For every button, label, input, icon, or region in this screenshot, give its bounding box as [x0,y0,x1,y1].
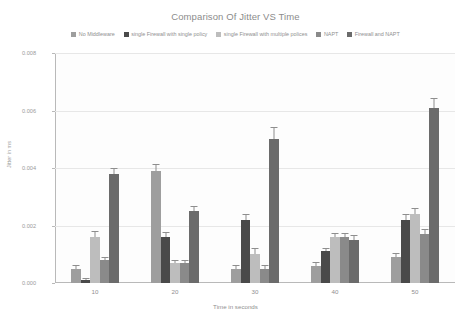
legend-item-0[interactable]: No Middleware [71,32,114,37]
error-bar-cap [332,233,339,234]
bar[interactable] [90,237,100,283]
bar[interactable] [321,251,331,283]
x-tick-label: 10 [92,288,99,295]
bar[interactable] [81,280,91,283]
bar-slot [429,53,439,283]
error-bar-cap [181,260,188,261]
bar[interactable] [241,220,251,283]
error-bar [165,233,166,237]
error-bar [236,266,237,268]
bar-group-10 [71,53,119,283]
bar[interactable] [349,240,359,283]
error-bar [316,263,317,265]
x-tick-label: 20 [172,288,179,295]
legend-item-4[interactable]: Firewall and NAPT [347,32,399,37]
error-bar [424,230,425,234]
bar[interactable] [71,269,81,283]
y-tick-label: 0.002 [0,223,36,229]
bar-slot [170,53,180,283]
bar-slot [260,53,270,283]
error-bar [156,165,157,171]
legend-label: single Firewall with single policy [131,32,207,37]
legend-item-2[interactable]: single Firewall with multiple polices [216,32,307,37]
y-tick-mark [52,283,55,284]
error-bar-cap [421,229,428,230]
error-bar [114,169,115,173]
bar[interactable] [269,139,279,283]
y-tick-label: 0.008 [0,50,36,56]
error-bar-cap [412,208,419,209]
chart-figure: Comparison Of Jitter VS Time No Middlewa… [0,0,471,324]
error-bar [405,215,406,219]
chart-title: Comparison Of Jitter VS Time [0,11,471,22]
bar-slot [401,53,411,283]
bar[interactable] [231,269,241,283]
bar[interactable] [161,237,171,283]
legend-swatch-icon [124,32,129,37]
bar-slot [151,53,161,283]
error-bar [325,249,326,252]
bar-slot [340,53,350,283]
bar-slot [189,53,199,283]
bar[interactable] [109,174,119,283]
bar-slot [330,53,340,283]
bar-slot [81,53,91,283]
bar[interactable] [429,108,439,283]
error-bar-cap [73,265,80,266]
legend-item-3[interactable]: NAPT [316,32,338,37]
bar-slot [420,53,430,283]
error-bar-cap [82,278,89,279]
error-bar-cap [313,262,320,263]
bar[interactable] [401,220,411,283]
bar[interactable] [250,254,260,283]
bar[interactable] [330,237,340,283]
bar[interactable] [260,269,270,283]
error-bar-cap [252,248,259,249]
legend-label: Firewall and NAPT [355,32,400,37]
bar[interactable] [170,263,180,283]
error-bar [104,258,105,260]
error-bar-cap [162,232,169,233]
bar[interactable] [420,234,430,283]
bar[interactable] [151,171,161,283]
error-bar [76,266,77,268]
bar-group-30 [231,53,279,283]
y-tick-mark [52,53,55,54]
x-tick-label: 50 [412,288,419,295]
bar[interactable] [410,214,420,283]
bar[interactable] [180,263,190,283]
bar[interactable] [311,266,321,283]
error-bar [335,234,336,237]
bar[interactable] [189,211,199,283]
bar[interactable] [391,257,401,283]
error-bar-cap [431,98,438,99]
legend-item-1[interactable]: single Firewall with single policy [124,32,208,37]
x-tick-label: 40 [332,288,339,295]
x-tick-label: 30 [252,288,259,295]
legend-label: NAPT [324,32,338,37]
bar-slot [391,53,401,283]
error-bar-cap [153,164,160,165]
error-bar [255,249,256,254]
bar-slot [161,53,171,283]
y-tick-mark [52,111,55,112]
y-tick-label: 0.006 [0,108,36,114]
error-bar [354,236,355,239]
bar-slot [349,53,359,283]
error-bar-cap [341,233,348,234]
legend-swatch-icon [216,32,221,37]
y-tick-mark [52,168,55,169]
error-bar [434,99,435,108]
error-bar [415,209,416,214]
error-bar-cap [393,253,400,254]
bar-slot [250,53,260,283]
error-bar-cap [322,248,329,249]
bar[interactable] [100,260,110,283]
error-bar-cap [351,235,358,236]
error-bar-cap [191,206,198,207]
bar-group-40 [311,53,359,283]
error-bar [194,207,195,211]
bar[interactable] [340,237,350,283]
y-axis-label: Jitter in ms [6,141,12,168]
bar-slot [311,53,321,283]
